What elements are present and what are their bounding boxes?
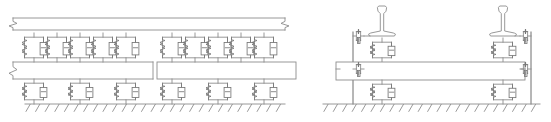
dashpot-damper-symbol — [86, 37, 93, 58]
rail-pad-row — [22, 33, 277, 62]
dashpot-damper-symbol — [132, 37, 139, 58]
rail-pad-spring-damper — [229, 33, 254, 62]
spring-coil-path — [523, 30, 527, 34]
ground-hatch-tick — [475, 104, 480, 112]
dashpot-damper-symbol — [40, 83, 47, 100]
ground-hatch-tick — [503, 104, 508, 112]
lateral-spring-damper-unit — [353, 30, 364, 44]
coil-spring-symbol — [523, 30, 527, 34]
ground-hatch-tick — [93, 104, 98, 112]
rail-pad-spring-damper — [22, 33, 47, 62]
ground-hatch-tick — [437, 104, 442, 112]
ground-hatch-tick — [55, 104, 60, 112]
dashpot-damper-symbol — [270, 37, 277, 58]
ground-hatch-tick — [141, 104, 146, 112]
damper-cylinder — [40, 88, 47, 98]
damper-cylinder — [509, 46, 516, 55]
ground-hatch-tick — [484, 104, 489, 112]
figure-canvas — [0, 0, 551, 122]
Longitudinal side view of floating slab track — [9, 18, 296, 112]
break-zigzag-path — [281, 18, 289, 30]
coil-spring-symbol — [114, 83, 119, 100]
rail-pad-spring-damper — [91, 33, 116, 62]
rail-pad-spring-damper — [160, 33, 185, 62]
ground-hatch-tick — [465, 104, 470, 112]
rail-pad-row — [370, 38, 516, 62]
ground-hatch-tick — [64, 104, 69, 112]
ground-hatch-tick — [343, 104, 348, 112]
slab-bearing-spring-damper — [68, 79, 93, 104]
spring-coil-path — [370, 84, 375, 100]
coil-spring-symbol — [160, 83, 165, 100]
damper-cylinder — [388, 46, 395, 55]
ground-hatch-tick — [352, 104, 357, 112]
spring-coil-path — [114, 83, 119, 100]
ground-hatch-tick — [35, 104, 40, 112]
slab-bearing-spring-damper — [206, 79, 231, 104]
ground-hatch-tick — [361, 104, 366, 112]
damper-cylinder — [270, 88, 277, 98]
ground-hatch-tick — [446, 104, 451, 112]
dashpot-damper-symbol — [356, 37, 360, 43]
slab-cross-section — [336, 62, 525, 80]
ground-hatch-tick — [209, 104, 214, 112]
slab-body — [336, 62, 525, 80]
rail-pad-spring-damper — [206, 33, 231, 62]
coil-spring-symbol — [356, 30, 360, 34]
ground-hatch-tick — [26, 104, 31, 112]
damper-cylinder — [270, 43, 277, 55]
coil-spring-symbol — [370, 42, 375, 58]
break-line-symbol — [9, 62, 17, 79]
ground-hatch-tick — [74, 104, 79, 112]
spring-coil-path — [68, 83, 73, 100]
dashpot-damper-symbol — [201, 37, 208, 58]
ground-hatch-tick — [390, 104, 395, 112]
dashpot-damper-symbol — [388, 42, 395, 58]
spring-coil-path — [491, 42, 496, 58]
rail-pad-spring-damper — [252, 33, 277, 62]
dashpot-damper-symbol — [109, 37, 116, 58]
lateral-spring-rail-left — [353, 30, 364, 44]
coil-spring-symbol — [206, 83, 211, 100]
lateral-spring-damper-unit — [520, 30, 531, 44]
coil-spring-symbol — [491, 84, 496, 100]
rail-pad-spring-damper — [491, 38, 516, 62]
dashpot-damper-symbol — [132, 83, 139, 100]
ground-hatch-tick — [103, 104, 108, 112]
ground-hatch-tick — [333, 104, 338, 112]
break-zigzag-path — [9, 62, 17, 79]
Transverse cross-section view of floating slab track — [323, 6, 540, 112]
ground-hatch-tick — [257, 104, 262, 112]
rail-pad-spring-damper — [45, 33, 70, 62]
ground-hatch-tick — [531, 104, 536, 112]
rail-profile-left — [369, 6, 396, 36]
slab-bearing-spring-damper — [22, 79, 47, 104]
spring-coil-path — [370, 42, 375, 58]
dashpot-damper-symbol — [247, 37, 254, 58]
slab-body — [157, 62, 296, 79]
ground-hatch-tick — [199, 104, 204, 112]
coil-spring-symbol — [252, 83, 257, 100]
slab-bearing-spring-damper — [252, 79, 277, 104]
damper-cylinder — [86, 88, 93, 98]
ground-hatch-tick — [180, 104, 185, 112]
coil-spring-symbol — [68, 83, 73, 100]
ground-hatch-tick — [418, 104, 423, 112]
ground-hatch-tick — [228, 104, 233, 112]
damper-cylinder — [388, 88, 395, 97]
damper-cylinder — [132, 43, 139, 55]
ground-hatch-tick — [267, 104, 272, 112]
spring-coil-path — [491, 84, 496, 100]
slab-bearing-spring-damper — [114, 79, 139, 104]
spring-coil-path — [356, 30, 360, 34]
dashpot-damper-symbol — [523, 37, 527, 43]
spring-coil-path — [252, 83, 257, 100]
break-line-symbol — [9, 18, 17, 30]
slab-bearing-spring-damper — [491, 80, 516, 104]
dashpot-damper-symbol — [509, 42, 516, 58]
ground-hatch-tick — [238, 104, 243, 112]
ground-hatch-tick — [494, 104, 499, 112]
ground-hatch-tick — [112, 104, 117, 112]
spring-coil-path — [160, 83, 165, 100]
slab-bearing-row — [370, 80, 516, 104]
